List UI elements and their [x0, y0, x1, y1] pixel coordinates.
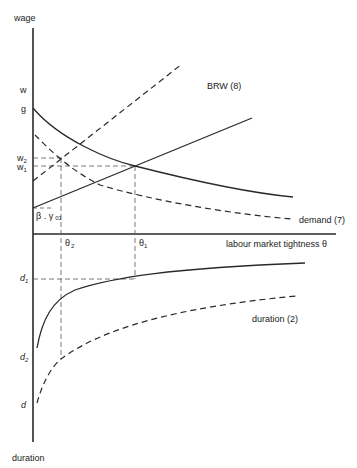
- demand-curve-label: demand (7): [299, 215, 345, 225]
- d1-label: d1: [20, 273, 28, 284]
- labour-market-diagram: wage duration labour market tightness θ …: [0, 0, 357, 468]
- demand-curve-solid: [33, 108, 293, 197]
- x-axis-symbol: θ: [322, 239, 327, 249]
- theta2-label: θ2: [65, 238, 75, 249]
- demand-curve-dashed: [35, 135, 292, 219]
- theta1-label: θ1: [139, 238, 148, 249]
- d2-label: d2: [20, 352, 29, 363]
- wage-axis-label: wage: [13, 13, 36, 23]
- w-label: w: [19, 85, 27, 95]
- duration-curve-solid: [37, 263, 305, 348]
- duration-axis-label: duration: [12, 453, 45, 463]
- x-axis-label: labour market tightness: [226, 239, 320, 249]
- d-label: d: [21, 400, 27, 410]
- brw-curve-label: BRW (8): [207, 81, 241, 91]
- g-label: g: [21, 104, 26, 114]
- beta-gamma-label: β . γ01: [36, 211, 63, 221]
- brw-curve-dashed: [33, 64, 182, 181]
- duration-curve-label: duration (2): [252, 314, 298, 324]
- duration-curve-dashed: [37, 296, 296, 403]
